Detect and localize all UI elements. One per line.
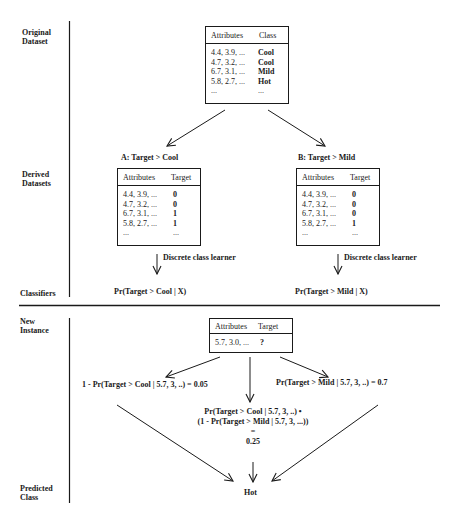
prediction-right: Pr(Target > Mild | 5.7, 3, ..) = 0.7 [276, 378, 387, 387]
classifier-a: Pr(Target > Cool | X) [114, 287, 186, 296]
table-row: 5.7, 3.0, ...? [215, 338, 292, 348]
new-instance-table: Attributes Target 5.7, 3.0, ...? [209, 318, 293, 353]
table-row: 4.7, 3.2, ...0 [302, 200, 379, 210]
table-header: Attributes Target [118, 169, 200, 186]
table-row: 4.4, 3.9, ...Cool [211, 48, 288, 58]
learner-label-a: Discrete class learner [163, 253, 236, 262]
derived-a-title: A: Target > Cool [121, 153, 178, 162]
row-label-predicted-class: Predicted Class [20, 484, 53, 502]
row-label-new-instance: New Instance [20, 317, 49, 335]
table-row: 4.4, 3.9, ...0 [123, 190, 200, 200]
table-header: Attributes Target [210, 319, 292, 334]
table-row: 4.4, 3.9, ...0 [302, 190, 379, 200]
row-label-classifiers: Classifiers [20, 289, 56, 298]
row-label-original-dataset: Original Dataset [22, 28, 51, 46]
table-row: ...... [123, 228, 200, 238]
derived-a-table: Attributes Target 4.4, 3.9, ...0 4.7, 3.… [117, 168, 201, 246]
classifier-b: Pr(Target > Mild | X) [295, 287, 368, 296]
table-row: 5.8, 2.7, ...1 [302, 219, 379, 229]
predicted-class-value: Hot [244, 488, 257, 497]
table-row: 4.7, 3.2, ...0 [123, 200, 200, 210]
table-row: 6.7, 3.1, ...Mild [211, 67, 288, 77]
table-header: Attributes Target [297, 169, 379, 186]
table-row: 5.8, 2.7, ...1 [123, 219, 200, 229]
row-label-derived-datasets: Derived Datasets [22, 170, 51, 188]
table-row: 4.7, 3.2, ...Cool [211, 58, 288, 68]
arrow-to-b [268, 110, 325, 146]
prediction-middle: Pr(Target > Cool | 5.7, 3, ..) • (1 - Pr… [170, 407, 336, 447]
table-row: 6.7, 3.1, ...0 [302, 209, 379, 219]
table-row: ...... [211, 86, 288, 96]
original-dataset-table: Attributes Class 4.4, 3.9, ...Cool 4.7, … [205, 26, 289, 104]
derived-b-title: B: Target > Mild [298, 153, 355, 162]
arrow-to-right-pred [280, 357, 328, 377]
table-row: ...... [302, 228, 379, 238]
table-row: 5.8, 2.7, ...Hot [211, 77, 288, 87]
arrow-to-a [167, 110, 225, 146]
learner-label-b: Discrete class learner [344, 253, 417, 262]
table-row: 6.7, 3.1, ...1 [123, 209, 200, 219]
derived-b-table: Attributes Target 4.4, 3.9, ...0 4.7, 3.… [296, 168, 380, 246]
table-header: Attributes Class [206, 27, 288, 44]
prediction-left: 1 - Pr(Target > Cool | 5.7, 3, ..) = 0.0… [82, 380, 208, 389]
arrow-to-left-pred [166, 357, 220, 377]
